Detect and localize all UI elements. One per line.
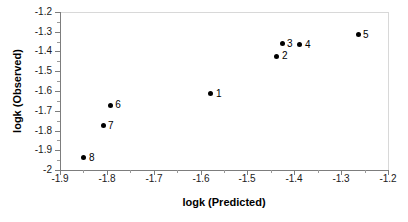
x-axis-minor-tick (224, 170, 225, 173)
plot-area (60, 12, 389, 171)
x-axis-tick-label: -1.6 (181, 174, 221, 184)
x-axis-tick-label: -1.4 (274, 174, 314, 184)
y-axis-tick (55, 51, 60, 52)
x-axis-minor-tick (271, 170, 272, 173)
y-axis-minor-tick (57, 61, 60, 62)
x-axis-tick-label: -1.8 (87, 174, 127, 184)
x-axis-title: logk (Predicted) (60, 196, 388, 209)
y-axis-title: logk (Observed) (10, 12, 24, 170)
y-axis-tick-label: -1.6 (0, 86, 52, 96)
y-axis-minor-tick (57, 160, 60, 161)
scatter-chart: -1.2-1.3-1.4-1.5-1.6-1.7-1.8-1.9-2 -1.9-… (0, 0, 408, 222)
y-axis-tick (55, 32, 60, 33)
x-axis-tick-label: -1.2 (368, 174, 408, 184)
y-axis-minor-tick (57, 101, 60, 102)
y-axis-tick (55, 12, 60, 13)
x-axis-minor-tick (318, 170, 319, 173)
y-axis-tick-label: -1.4 (0, 46, 52, 56)
y-axis-tick-label: -1.3 (0, 27, 52, 37)
data-point-label: 4 (305, 40, 311, 50)
data-point-label: 2 (282, 51, 288, 61)
data-point (108, 103, 113, 108)
y-axis-minor-tick (57, 140, 60, 141)
y-axis-minor-tick (57, 22, 60, 23)
data-point (356, 32, 361, 37)
x-axis-tick-label: -1.3 (321, 174, 361, 184)
y-axis-tick (55, 150, 60, 151)
x-axis-minor-tick (177, 170, 178, 173)
data-point-label: 1 (216, 89, 222, 99)
y-axis-tick-label: -1.2 (0, 7, 52, 17)
y-axis-minor-tick (57, 121, 60, 122)
x-axis-tick-label: -1.9 (40, 174, 80, 184)
x-axis-minor-tick (130, 170, 131, 173)
data-point-label: 5 (363, 30, 369, 40)
y-axis-tick-label: -1.7 (0, 106, 52, 116)
y-axis-tick (55, 71, 60, 72)
data-point-label: 6 (115, 100, 121, 110)
y-axis-minor-tick (57, 81, 60, 82)
y-axis-tick (55, 131, 60, 132)
y-axis-tick (55, 91, 60, 92)
y-axis-minor-tick (57, 42, 60, 43)
y-axis-tick-label: -1.8 (0, 126, 52, 136)
x-axis-minor-tick (83, 170, 84, 173)
data-point-label: 7 (108, 121, 114, 131)
y-axis-tick-label: -1.5 (0, 66, 52, 76)
x-axis-tick-label: -1.5 (227, 174, 267, 184)
data-point-label: 8 (89, 153, 95, 163)
y-axis-tick-label: -1.9 (0, 145, 52, 155)
x-axis-tick-label: -1.7 (134, 174, 174, 184)
x-axis-minor-tick (365, 170, 366, 173)
y-axis-tick (55, 111, 60, 112)
data-point-label: 3 (287, 39, 293, 49)
